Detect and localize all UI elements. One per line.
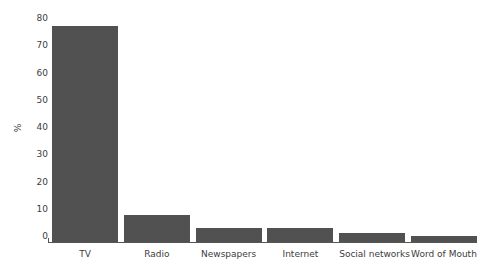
bar-slot xyxy=(124,18,190,242)
x-axis-tick-label: Social networks xyxy=(339,248,405,264)
x-axis-tick-label: Radio xyxy=(124,248,190,264)
y-axis-tick-label: 10 xyxy=(26,204,48,214)
bar-chart: % 80706050403020100 TVRadioNewspapersInt… xyxy=(0,0,490,278)
y-axis-tick-label: 20 xyxy=(26,177,48,187)
y-axis-tick-labels: 80706050403020100 xyxy=(26,13,48,249)
y-axis-tick-label: 70 xyxy=(26,40,48,50)
y-axis-tick-label: 0 xyxy=(26,231,48,241)
x-axis-line xyxy=(48,242,477,243)
y-axis-origin-tick xyxy=(48,238,49,243)
y-axis-tick-label: 50 xyxy=(26,95,48,105)
bar[interactable] xyxy=(411,236,477,242)
x-axis-tick-label: Newspapers xyxy=(196,248,262,264)
y-axis-tick-label: 60 xyxy=(26,68,48,78)
bar-slot xyxy=(52,18,118,242)
bar-slot xyxy=(339,18,405,242)
y-axis-title: % xyxy=(8,118,28,138)
bar[interactable] xyxy=(267,228,333,242)
bar-slot xyxy=(411,18,477,242)
bar[interactable] xyxy=(124,215,190,242)
bar[interactable] xyxy=(52,26,118,242)
bar-series xyxy=(52,18,477,242)
bar-slot xyxy=(196,18,262,242)
bar[interactable] xyxy=(339,233,405,242)
y-axis-tick-label: 30 xyxy=(26,149,48,159)
x-axis-tick-label: Internet xyxy=(267,248,333,264)
plot-area xyxy=(52,18,477,243)
y-axis-tick-label: 80 xyxy=(26,13,48,23)
x-axis-tick-label: Word of Mouth xyxy=(411,248,477,264)
bar-slot xyxy=(267,18,333,242)
x-axis-tick-labels: TVRadioNewspapersInternetSocial networks… xyxy=(52,248,477,264)
x-axis-tick-label: TV xyxy=(52,248,118,264)
bar[interactable] xyxy=(196,228,262,242)
y-axis-tick-label: 40 xyxy=(26,122,48,132)
